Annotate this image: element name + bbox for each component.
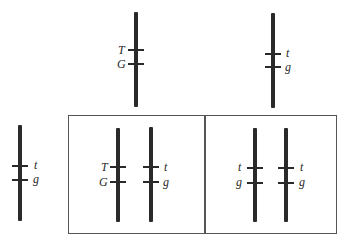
chromosome-bar [18,125,22,221]
locus-label: g [163,176,169,188]
locus-label: g [236,176,242,188]
chromosome-bar [134,12,138,107]
chromosome-bar [116,128,120,222]
locus-label: T [101,161,108,173]
chromosome-bar [284,128,288,222]
locus-tick [247,182,263,184]
locus-tick [143,166,159,168]
chromosome-bar [253,128,257,222]
locus-tick [12,179,28,181]
locus-label: G [99,176,108,188]
locus-label: T [118,44,125,56]
locus-label: g [33,173,39,185]
locus-tick [265,53,281,55]
locus-tick [278,167,294,169]
locus-label: t [286,47,289,59]
offspring-divider [204,115,206,234]
locus-tick [110,181,126,183]
locus-tick [265,66,281,68]
locus-tick [128,63,144,65]
locus-label: t [164,161,167,173]
locus-tick [12,165,28,167]
locus-label: t [238,161,241,173]
locus-label: g [285,61,291,73]
locus-label: t [300,161,303,173]
locus-tick [128,49,144,51]
locus-tick [110,166,126,168]
locus-tick [247,167,263,169]
locus-label: t [34,159,37,171]
locus-label: g [299,176,305,188]
offspring-box [68,115,337,234]
chromosome-bar [149,127,153,222]
locus-tick [278,182,294,184]
locus-label: G [117,58,126,70]
locus-tick [143,181,159,183]
chromosome-bar [271,13,275,108]
